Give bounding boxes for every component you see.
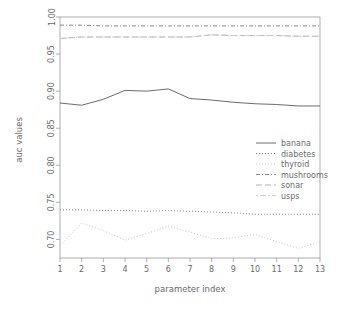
chart-figure: 0.700.750.800.850.900.951.00123456789101… xyxy=(0,0,339,310)
x-tick-label: 12 xyxy=(293,265,303,274)
line-chart: 0.700.750.800.850.900.951.00123456789101… xyxy=(0,0,339,310)
x-tick-label: 3 xyxy=(101,265,106,274)
legend-label-banana: banana xyxy=(281,139,311,148)
series-line-mushrooms xyxy=(60,25,320,26)
x-tick-label: 10 xyxy=(250,265,260,274)
x-tick-label: 2 xyxy=(79,265,84,274)
x-tick-label: 6 xyxy=(166,265,171,274)
x-tick-label: 13 xyxy=(315,265,325,274)
x-axis-title: parameter index xyxy=(155,284,226,294)
legend-label-thyroid: thyroid xyxy=(281,160,309,169)
legend-label-mushrooms: mushrooms xyxy=(281,171,328,180)
x-tick-label: 11 xyxy=(272,265,282,274)
x-tick-label: 9 xyxy=(231,265,236,274)
y-tick-label: 0.80 xyxy=(48,156,57,174)
series-line-thyroid xyxy=(60,223,320,248)
x-tick-label: 4 xyxy=(122,265,127,274)
legend-label-diabetes: diabetes xyxy=(281,150,315,159)
legend-label-sonar: sonar xyxy=(281,181,304,190)
y-axis-title: auc values xyxy=(14,117,24,163)
y-tick-label: 0.85 xyxy=(48,119,57,137)
chart-legend: bananadiabetesthyroidmushroomssonarusps xyxy=(256,139,328,201)
y-tick-label: 1.00 xyxy=(48,8,57,26)
x-tick-label: 1 xyxy=(57,265,62,274)
x-tick-label: 5 xyxy=(144,265,149,274)
x-tick-label: 8 xyxy=(209,265,214,274)
x-tick-label: 7 xyxy=(187,265,192,274)
series-line-banana xyxy=(60,89,320,106)
legend-label-usps: usps xyxy=(281,192,299,201)
y-tick-label: 0.95 xyxy=(48,45,57,63)
y-tick-label: 0.90 xyxy=(48,82,57,100)
y-tick-label: 0.75 xyxy=(48,193,57,211)
y-tick-label: 0.70 xyxy=(48,231,57,249)
data-series-group xyxy=(60,25,320,248)
series-line-diabetes xyxy=(60,210,320,214)
plot-frame xyxy=(60,17,320,258)
